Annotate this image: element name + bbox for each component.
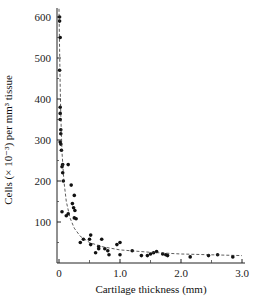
data-point bbox=[74, 217, 78, 221]
data-point bbox=[89, 233, 93, 237]
y-tick-label: 200 bbox=[35, 175, 52, 187]
data-point bbox=[188, 255, 192, 259]
data-point bbox=[97, 247, 101, 251]
fitted-curve bbox=[59, 9, 242, 256]
data-point bbox=[103, 247, 107, 251]
data-point bbox=[89, 243, 93, 247]
data-point bbox=[118, 253, 122, 257]
x-axis-label: Cartilage thickness (mm) bbox=[95, 283, 207, 296]
data-point bbox=[59, 128, 63, 132]
data-point bbox=[62, 179, 66, 183]
x-tick-label: 3.0 bbox=[235, 267, 249, 279]
y-tick-label: 300 bbox=[35, 134, 52, 146]
data-point bbox=[94, 251, 98, 255]
data-point bbox=[140, 254, 144, 258]
y-tick-label: 600 bbox=[35, 11, 52, 23]
data-point bbox=[66, 163, 70, 167]
scatter-chart: 100200300400500600 01.02.03.0 Cartilage … bbox=[0, 0, 256, 299]
x-tick-label: 0 bbox=[56, 267, 62, 279]
plot-area bbox=[58, 9, 242, 259]
y-tick-label: 100 bbox=[35, 216, 52, 228]
data-point bbox=[88, 237, 92, 241]
data-point bbox=[69, 183, 73, 187]
y-tick-label: 500 bbox=[35, 52, 52, 64]
data-point bbox=[60, 149, 64, 153]
data-point bbox=[106, 249, 110, 253]
data-point bbox=[58, 112, 62, 116]
data-point bbox=[118, 241, 122, 245]
data-point bbox=[146, 254, 150, 258]
data-point bbox=[71, 202, 75, 206]
data-point bbox=[100, 237, 104, 241]
data-point bbox=[58, 105, 62, 109]
data-point bbox=[60, 210, 64, 214]
data-point bbox=[73, 209, 77, 213]
data-point bbox=[61, 171, 65, 175]
x-tick-label: 2.0 bbox=[174, 267, 188, 279]
data-point bbox=[79, 241, 83, 245]
data-point bbox=[59, 132, 63, 136]
y-axis-label: Cells (× 10⁻³) per mm³ tissue bbox=[2, 75, 15, 205]
y-tick-label: 400 bbox=[35, 93, 52, 105]
x-axis-ticks: 01.02.03.0 bbox=[56, 259, 249, 279]
data-point bbox=[107, 253, 111, 257]
data-point bbox=[166, 254, 170, 258]
data-point bbox=[115, 243, 119, 247]
data-point bbox=[58, 19, 62, 23]
x-tick-label: 1.0 bbox=[113, 267, 127, 279]
data-point bbox=[73, 194, 77, 198]
